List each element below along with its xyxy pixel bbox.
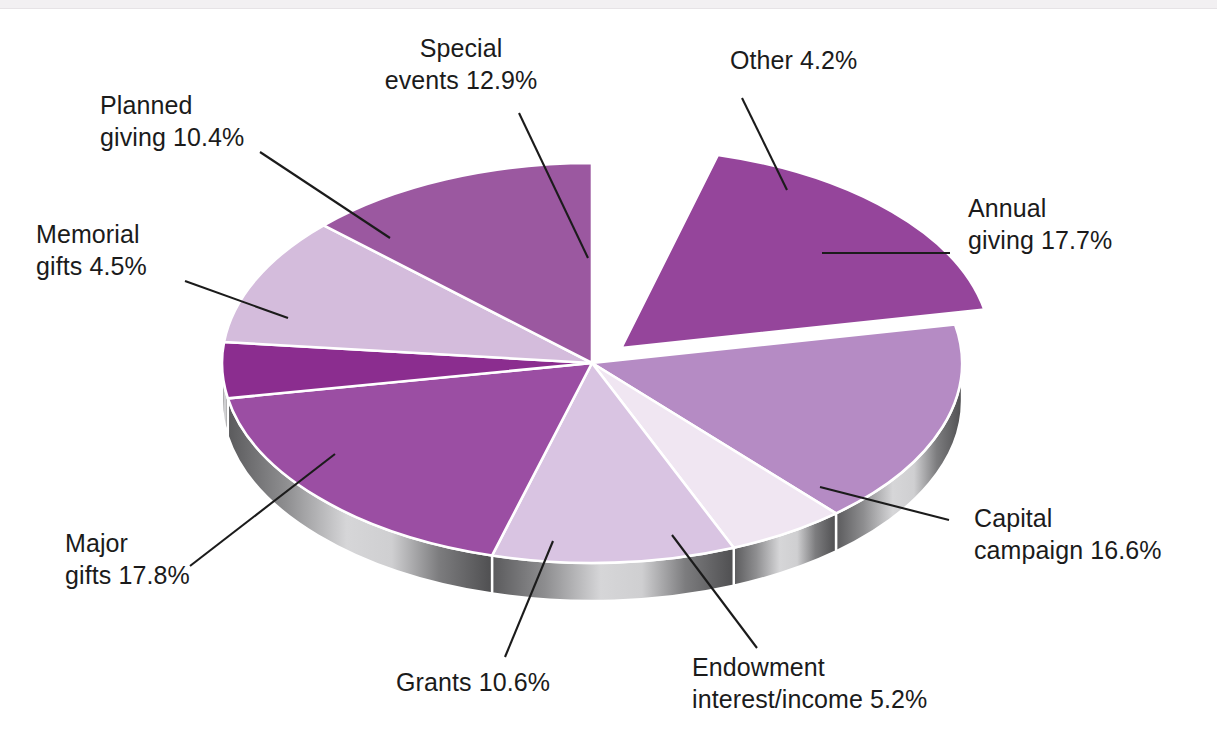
label-special-events: Special events 12.9%	[356, 32, 566, 96]
label-major-gifts-line1: Major	[65, 527, 190, 559]
label-planned-giving-line1: Planned	[100, 89, 244, 121]
label-memorial-gifts: Memorial gifts 4.5%	[36, 218, 147, 282]
label-major-gifts-line2: gifts 17.8%	[65, 559, 190, 591]
label-planned-giving-line2: giving 10.4%	[100, 121, 244, 153]
label-grants: Grants 10.6%	[396, 666, 550, 698]
label-other: Other 4.2%	[730, 44, 857, 76]
label-memorial-gifts-line2: gifts 4.5%	[36, 250, 147, 282]
label-other-line1: Other 4.2%	[730, 44, 857, 76]
label-capital-campaign: Capital campaign 16.6%	[974, 502, 1162, 566]
label-endowment-line1: Endowment	[692, 651, 927, 683]
label-major-gifts: Major gifts 17.8%	[65, 527, 190, 591]
label-grants-line1: Grants 10.6%	[396, 666, 550, 698]
label-memorial-gifts-line1: Memorial	[36, 218, 147, 250]
label-annual-giving: Annual giving 17.7%	[968, 192, 1112, 256]
label-endowment: Endowment interest/income 5.2%	[692, 651, 927, 715]
pie-chart-figure: Special events 12.9% Planned giving 10.4…	[0, 0, 1217, 750]
label-planned-giving: Planned giving 10.4%	[100, 89, 244, 153]
label-capital-campaign-line1: Capital	[974, 502, 1162, 534]
label-special-events-line2: events 12.9%	[356, 64, 566, 96]
label-special-events-line1: Special	[356, 32, 566, 64]
pie-slice-annual-giving	[621, 155, 984, 348]
pie-body	[222, 155, 984, 601]
label-endowment-line2: interest/income 5.2%	[692, 683, 927, 715]
label-annual-giving-line1: Annual	[968, 192, 1112, 224]
label-capital-campaign-line2: campaign 16.6%	[974, 534, 1162, 566]
label-annual-giving-line2: giving 17.7%	[968, 224, 1112, 256]
